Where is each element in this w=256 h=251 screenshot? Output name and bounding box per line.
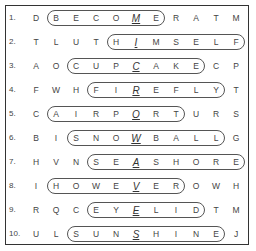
letter-cell[interactable]: N: [66, 157, 86, 168]
letter-cell[interactable]: E: [106, 157, 126, 168]
letter-cell[interactable]: S: [166, 37, 186, 48]
letter-cell[interactable]: I: [166, 205, 186, 216]
letter-cell[interactable]: H: [46, 181, 66, 192]
letter-cell[interactable]: I: [46, 133, 66, 144]
highlighted-letter[interactable]: C: [126, 61, 146, 73]
letter-cell[interactable]: O: [186, 157, 206, 168]
letter-cell[interactable]: I: [106, 85, 126, 96]
letter-cell[interactable]: T: [206, 205, 226, 216]
letter-cell[interactable]: S: [66, 133, 86, 144]
letter-cell[interactable]: L: [46, 229, 66, 240]
letter-cell[interactable]: I: [166, 229, 186, 240]
letter-cell[interactable]: N: [106, 229, 126, 240]
letter-cell[interactable]: A: [166, 133, 186, 144]
highlighted-letter[interactable]: R: [126, 85, 146, 97]
letter-cell[interactable]: S: [86, 157, 106, 168]
letter-cell[interactable]: T: [226, 85, 246, 96]
letter-cell[interactable]: H: [146, 229, 166, 240]
letter-cell[interactable]: W: [46, 85, 66, 96]
letter-cell[interactable]: L: [206, 37, 226, 48]
letter-cell[interactable]: O: [46, 61, 66, 72]
letter-cell[interactable]: K: [166, 61, 186, 72]
letter-cell[interactable]: C: [66, 205, 86, 216]
letter-cell[interactable]: U: [186, 109, 206, 120]
letter-cell[interactable]: T: [86, 37, 106, 48]
letter-cell[interactable]: R: [86, 109, 106, 120]
letter-cell[interactable]: A: [146, 61, 166, 72]
letter-cell[interactable]: E: [186, 61, 206, 72]
letter-cell[interactable]: C: [66, 61, 86, 72]
letter-cell[interactable]: E: [106, 181, 126, 192]
letter-cell[interactable]: H: [106, 37, 126, 48]
letter-cell[interactable]: B: [26, 133, 46, 144]
letter-cell[interactable]: E: [186, 37, 206, 48]
letter-cell[interactable]: D: [186, 205, 206, 216]
letter-cell[interactable]: V: [46, 157, 66, 168]
letter-cell[interactable]: L: [146, 205, 166, 216]
letter-cell[interactable]: Y: [106, 205, 126, 216]
letter-cell[interactable]: D: [26, 13, 46, 24]
letter-cell[interactable]: H: [26, 157, 46, 168]
letter-cell[interactable]: H: [166, 157, 186, 168]
letter-cell[interactable]: W: [86, 181, 106, 192]
letter-cell[interactable]: O: [106, 13, 126, 24]
letter-cell[interactable]: G: [226, 133, 246, 144]
letter-cell[interactable]: I: [26, 181, 46, 192]
letter-cell[interactable]: I: [66, 109, 86, 120]
letter-cell[interactable]: M: [146, 37, 166, 48]
highlighted-letter[interactable]: I: [126, 37, 146, 49]
letter-cell[interactable]: E: [226, 157, 246, 168]
letter-cell[interactable]: E: [66, 13, 86, 24]
letter-cell[interactable]: E: [146, 13, 166, 24]
letter-cell[interactable]: M: [226, 205, 246, 216]
letter-cell[interactable]: N: [186, 229, 206, 240]
letter-cell[interactable]: L: [46, 37, 66, 48]
letter-cell[interactable]: F: [226, 37, 246, 48]
letter-cell[interactable]: E: [86, 205, 106, 216]
letter-cell[interactable]: A: [26, 61, 46, 72]
letter-cell[interactable]: E: [206, 229, 226, 240]
highlighted-letter[interactable]: A: [126, 157, 146, 169]
letter-cell[interactable]: R: [146, 109, 166, 120]
letter-cell[interactable]: H: [66, 85, 86, 96]
letter-cell[interactable]: R: [166, 181, 186, 192]
letter-cell[interactable]: B: [146, 133, 166, 144]
letter-cell[interactable]: R: [26, 205, 46, 216]
highlighted-letter[interactable]: S: [126, 229, 146, 241]
letter-cell[interactable]: U: [86, 61, 106, 72]
letter-cell[interactable]: T: [26, 37, 46, 48]
letter-cell[interactable]: M: [226, 13, 246, 24]
letter-cell[interactable]: A: [46, 109, 66, 120]
letter-cell[interactable]: Y: [206, 85, 226, 96]
highlighted-letter[interactable]: V: [126, 181, 146, 193]
letter-cell[interactable]: J: [226, 229, 246, 240]
letter-cell[interactable]: B: [46, 13, 66, 24]
highlighted-letter[interactable]: O: [126, 109, 146, 121]
letter-cell[interactable]: W: [206, 181, 226, 192]
letter-cell[interactable]: C: [206, 61, 226, 72]
letter-cell[interactable]: S: [226, 109, 246, 120]
letter-cell[interactable]: R: [166, 13, 186, 24]
letter-cell[interactable]: R: [206, 157, 226, 168]
letter-cell[interactable]: C: [86, 13, 106, 24]
letter-cell[interactable]: S: [66, 229, 86, 240]
letter-cell[interactable]: Q: [46, 205, 66, 216]
letter-cell[interactable]: F: [86, 85, 106, 96]
letter-cell[interactable]: T: [206, 13, 226, 24]
letter-cell[interactable]: N: [86, 133, 106, 144]
highlighted-letter[interactable]: E: [126, 205, 146, 217]
letter-cell[interactable]: L: [206, 133, 226, 144]
letter-cell[interactable]: F: [166, 85, 186, 96]
letter-cell[interactable]: P: [106, 109, 126, 120]
letter-cell[interactable]: L: [186, 85, 206, 96]
letter-cell[interactable]: A: [186, 13, 206, 24]
letter-cell[interactable]: H: [226, 181, 246, 192]
highlighted-letter[interactable]: M: [126, 13, 146, 25]
letter-cell[interactable]: O: [66, 181, 86, 192]
letter-cell[interactable]: F: [26, 85, 46, 96]
letter-cell[interactable]: S: [146, 157, 166, 168]
letter-cell[interactable]: U: [26, 229, 46, 240]
letter-cell[interactable]: L: [186, 133, 206, 144]
letter-cell[interactable]: E: [146, 85, 166, 96]
letter-cell[interactable]: U: [66, 37, 86, 48]
